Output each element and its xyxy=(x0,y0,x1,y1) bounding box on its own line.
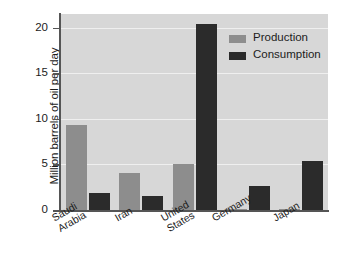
plot-area xyxy=(61,14,328,210)
gridline xyxy=(61,119,328,120)
legend-swatch-production-icon xyxy=(229,35,246,43)
bar-japan-consumption xyxy=(302,161,323,210)
bar-saudi-arabia-production xyxy=(66,125,87,210)
bar-saudi-arabia-consumption xyxy=(89,193,110,210)
y-tick-label: 10 xyxy=(8,112,48,124)
legend-label-consumption: Consumption xyxy=(253,48,321,60)
legend-label-production: Production xyxy=(253,31,308,43)
gridline xyxy=(61,73,328,74)
y-tick-label: 20 xyxy=(8,21,48,33)
bar-iran-production xyxy=(119,173,140,210)
bar-united-states-consumption xyxy=(196,24,217,210)
y-tick-label: 0 xyxy=(8,203,48,215)
gridline xyxy=(61,28,328,29)
y-tick-mark xyxy=(53,73,60,75)
legend-swatch-consumption-icon xyxy=(229,52,246,60)
y-tick-mark xyxy=(53,119,60,121)
gridline xyxy=(61,164,328,165)
y-tick-mark xyxy=(53,164,60,166)
oil-production-consumption-bar-chart: Million barrels of oil per day 20151050 … xyxy=(0,0,343,263)
bar-iran-consumption xyxy=(142,196,163,210)
y-tick-mark xyxy=(53,28,60,30)
y-tick-label: 5 xyxy=(8,157,48,169)
y-tick-label: 15 xyxy=(8,66,48,78)
bar-germany-consumption xyxy=(249,186,270,210)
y-axis-line xyxy=(59,13,61,212)
